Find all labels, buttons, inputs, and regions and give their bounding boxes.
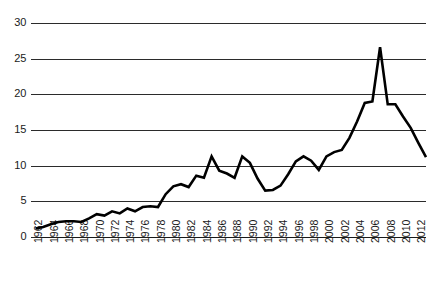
x-axis-tick-label: 2008 xyxy=(385,219,397,243)
x-axis-tick-labels: 1962196419661968197019721974197619781980… xyxy=(32,219,427,243)
x-axis-tick-label: 2006 xyxy=(369,219,381,243)
y-axis-tick-label: 5 xyxy=(20,194,26,206)
x-axis-tick-label: 1980 xyxy=(170,219,182,243)
y-axis-tick-label: 25 xyxy=(14,52,26,64)
x-axis-tick-label: 1976 xyxy=(139,219,151,243)
x-axis-tick-label: 1978 xyxy=(155,219,167,243)
x-axis-tick-label: 1996 xyxy=(293,219,305,243)
x-axis-tick-label: 2010 xyxy=(400,219,412,243)
x-axis-tick-label: 1972 xyxy=(109,219,121,243)
y-axis-tick-label: 10 xyxy=(14,159,26,171)
y-axis-tick-label: 30 xyxy=(14,16,26,28)
x-axis-tick-label: 1966 xyxy=(63,219,75,243)
gridlines xyxy=(31,24,427,238)
x-axis-tick-label: 1986 xyxy=(216,219,228,243)
x-axis-tick-label: 2002 xyxy=(339,219,351,243)
x-axis-tick-label: 2012 xyxy=(415,219,427,243)
x-axis-tick-label: 1970 xyxy=(94,219,106,243)
y-axis-tick-label: 15 xyxy=(14,123,26,135)
x-axis-tick-label: 1962 xyxy=(32,219,44,243)
y-axis-tick-label: 20 xyxy=(14,87,26,99)
x-axis-tick-label: 2004 xyxy=(354,219,366,243)
x-axis-tick-label: 1974 xyxy=(124,219,136,243)
chart-canvas: 051015202530 196219641966196819701972197… xyxy=(0,0,443,287)
y-axis-tick-labels: 051015202530 xyxy=(14,16,26,242)
line-chart: 051015202530 196219641966196819701972197… xyxy=(0,0,443,287)
x-axis-tick-label: 2000 xyxy=(323,219,335,243)
x-axis-tick-label: 1990 xyxy=(247,219,259,243)
x-axis-tick-label: 1984 xyxy=(201,219,213,243)
y-axis-tick-label: 0 xyxy=(20,230,26,242)
x-axis-tick-label: 1992 xyxy=(262,219,274,243)
x-axis-tick-label: 1988 xyxy=(231,219,243,243)
x-axis-tick-label: 1994 xyxy=(277,219,289,243)
x-axis-tick-label: 1982 xyxy=(185,219,197,243)
x-axis-tick-label: 1998 xyxy=(308,219,320,243)
